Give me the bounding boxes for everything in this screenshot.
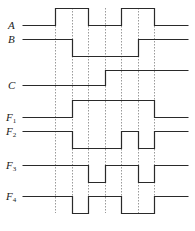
- timing-diagram: A B C F1 F2 F3 F4: [0, 0, 195, 231]
- waveform-canvas: [0, 0, 195, 231]
- waveform-f1: [23, 101, 189, 118]
- label-f4: F4: [6, 191, 16, 206]
- label-c: C: [8, 80, 15, 95]
- label-f3: F3: [6, 160, 16, 175]
- label-b: B: [8, 34, 15, 49]
- waveform-f3: [23, 166, 189, 183]
- waveform-c: [23, 71, 189, 86]
- label-f2: F2: [6, 126, 16, 141]
- waveform-f4: [23, 197, 189, 214]
